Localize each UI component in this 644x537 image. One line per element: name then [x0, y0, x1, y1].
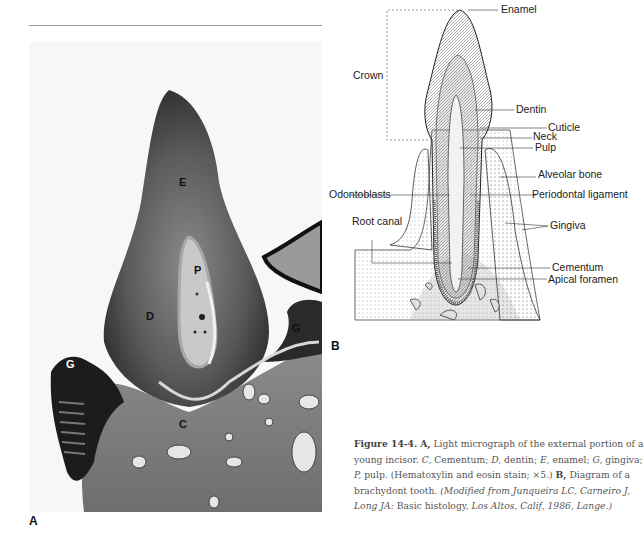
caption-abbr-c-text: Cementum;	[434, 454, 488, 465]
label-dentin-d: D	[146, 310, 154, 322]
diagram-label-apical-foramen: Apical foramen	[548, 274, 618, 285]
diagram-label-root-canal: Root canal	[352, 216, 402, 227]
diagram-panel-b: Enamel Crown Dentin Cuticle Neck Pulp Al…	[350, 0, 644, 335]
label-cementum-c: C	[179, 418, 187, 430]
panel-b-label: B	[331, 339, 340, 353]
diagram-label-gingiva: Gingiva	[550, 220, 586, 231]
diagram-label-dentin: Dentin	[516, 104, 546, 115]
caption-b-marker: B,	[556, 469, 567, 480]
panel-a-label: A	[29, 514, 38, 528]
label-pulp-p: P	[194, 264, 201, 276]
label-gingiva-left-g: G	[66, 358, 75, 370]
caption-figure-number: Figure 14-4.	[354, 438, 417, 449]
micrograph-image	[29, 42, 322, 512]
label-gingiva-right-g: G	[292, 322, 301, 334]
caption-a-marker: A,	[420, 438, 430, 449]
caption-abbr-p: P,	[354, 469, 361, 480]
caption-stain: (Hematoxylin and eosin stain; ×5.)	[391, 469, 553, 480]
caption-abbr-d-text: dentin;	[504, 454, 537, 465]
diagram-label-periodontal-ligament: Periodontal ligament	[532, 189, 628, 200]
caption-abbr-d: D,	[491, 454, 501, 465]
caption-abbr-g: G,	[592, 454, 602, 465]
caption-source-place: Los Altos, Calif,	[472, 500, 545, 511]
figure-caption: Figure 14-4. A, Light micrograph of the …	[354, 436, 644, 514]
diagram-label-crown: Crown	[353, 70, 383, 81]
caption-abbr-c: C,	[422, 454, 432, 465]
diagram-label-cementum: Cementum	[552, 262, 603, 273]
diagram-label-pulp: Pulp	[535, 142, 556, 153]
top-rule	[29, 25, 322, 26]
label-enamel-e: E	[179, 176, 186, 188]
diagram-label-odontoblasts: Odontoblasts	[329, 189, 391, 200]
caption-abbr-e-text: enamel;	[552, 454, 589, 465]
caption-abbr-g-text: gingiva;	[605, 454, 642, 465]
diagram-label-neck: Neck	[533, 131, 557, 142]
caption-abbr-e: E,	[540, 454, 550, 465]
caption-source-year: 1986, Lange.)	[548, 500, 613, 511]
tooth-pulp	[448, 95, 464, 292]
micrograph-panel-a: E P D G G C	[29, 42, 322, 512]
diagram-label-alveolar-bone: Alveolar bone	[538, 169, 602, 180]
diagram-label-enamel: Enamel	[501, 4, 537, 15]
caption-source-title: Basic histology,	[397, 500, 469, 511]
caption-abbr-p-text: pulp.	[364, 469, 388, 480]
